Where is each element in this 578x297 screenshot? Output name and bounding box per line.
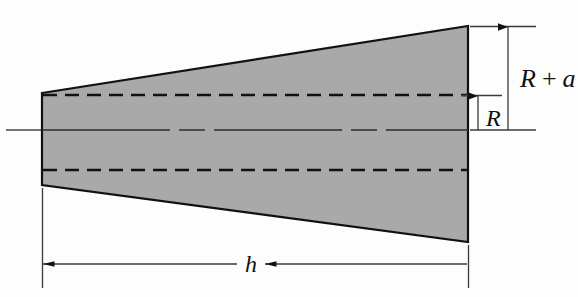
dimension-label-r: R (485, 105, 501, 131)
label-symbol-a: a (563, 64, 576, 93)
label-symbol-r: R (519, 64, 536, 93)
figure-container: R+a R h (0, 0, 578, 297)
dimension-label-h: h (245, 251, 257, 277)
frustum-cross-section (42, 26, 468, 242)
label-operator-plus: + (542, 64, 557, 93)
dimension-label-r-plus-a: R+a (519, 64, 576, 93)
diagram-canvas: R+a R h (0, 0, 578, 297)
